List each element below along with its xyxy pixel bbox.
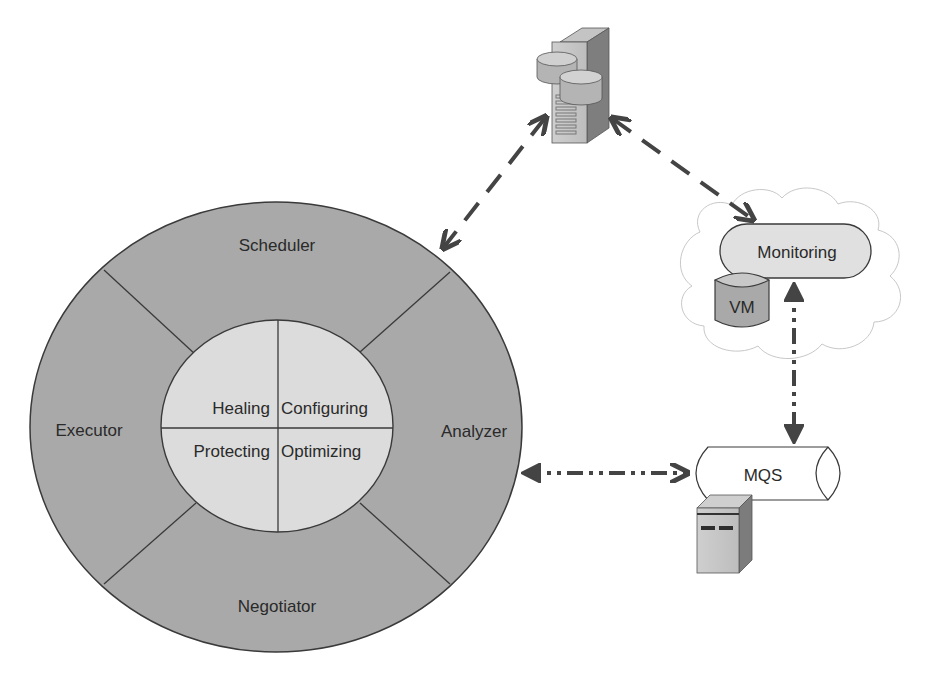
architecture-diagram: Scheduler Analyzer Negotiator Executor H… [0,0,941,677]
database-server-icon[interactable] [537,28,609,143]
segment-negotiator[interactable]: Negotiator [238,597,317,616]
vm-label: VM [729,298,755,317]
monitoring-label: Monitoring [757,243,836,262]
segment-scheduler[interactable]: Scheduler [239,236,316,255]
vm-node[interactable]: VM [715,273,769,327]
quadrant-configuring[interactable]: Configuring [281,399,368,418]
mqs-node[interactable]: MQS [696,447,840,500]
connector-db-to-monitoring [613,119,752,219]
segment-analyzer[interactable]: Analyzer [441,422,507,441]
monitoring-node[interactable]: Monitoring [720,224,871,278]
inner-core: Healing Configuring Protecting Optimizin… [161,320,393,532]
quadrant-optimizing[interactable]: Optimizing [281,442,361,461]
connector-db-to-ring [444,118,545,247]
quadrant-healing[interactable]: Healing [212,399,270,418]
segment-executor[interactable]: Executor [55,421,122,440]
server-icon[interactable] [697,495,752,573]
inner-core-ellipse [161,320,393,532]
quadrant-protecting[interactable]: Protecting [193,442,270,461]
mqs-label: MQS [744,466,783,485]
